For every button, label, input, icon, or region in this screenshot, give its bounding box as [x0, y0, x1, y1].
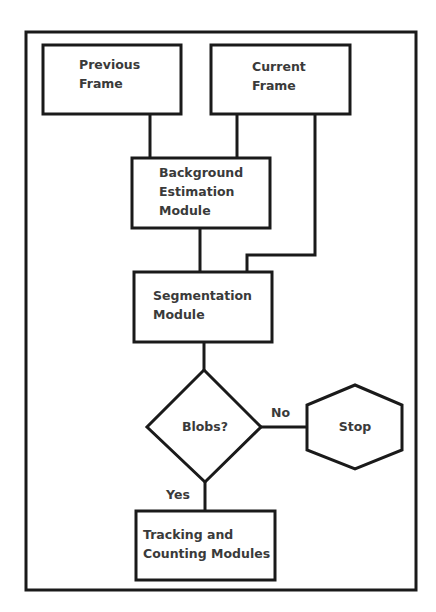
previous-frame-label: Previous Frame: [79, 55, 140, 93]
blobs-label: Blobs?: [172, 417, 238, 436]
blobs-line-1: Blobs?: [172, 417, 238, 436]
current-frame-line-2: Frame: [252, 76, 306, 95]
tracking-counting-label: Tracking and Counting Modules: [143, 525, 270, 563]
background-estimation-line-3: Module: [159, 201, 243, 220]
stop-label: Stop: [325, 417, 385, 436]
flowchart-canvas: Previous Frame Current Frame Background …: [0, 0, 436, 612]
previous-frame-line-1: Previous: [79, 55, 140, 74]
connector-current-to-segmentation: [247, 114, 315, 272]
background-estimation-label: Background Estimation Module: [159, 163, 243, 220]
stop-line-1: Stop: [325, 417, 385, 436]
edge-label-yes: Yes: [166, 485, 190, 504]
segmentation-line-2: Module: [153, 305, 252, 324]
previous-frame-line-2: Frame: [79, 74, 140, 93]
tracking-counting-line-2: Counting Modules: [143, 544, 270, 563]
edge-label-no: No: [271, 403, 290, 422]
segmentation-label: Segmentation Module: [153, 286, 252, 324]
background-estimation-line-2: Estimation: [159, 182, 243, 201]
current-frame-label: Current Frame: [252, 57, 306, 95]
tracking-counting-line-1: Tracking and: [143, 525, 270, 544]
background-estimation-line-1: Background: [159, 163, 243, 182]
segmentation-line-1: Segmentation: [153, 286, 252, 305]
current-frame-line-1: Current: [252, 57, 306, 76]
